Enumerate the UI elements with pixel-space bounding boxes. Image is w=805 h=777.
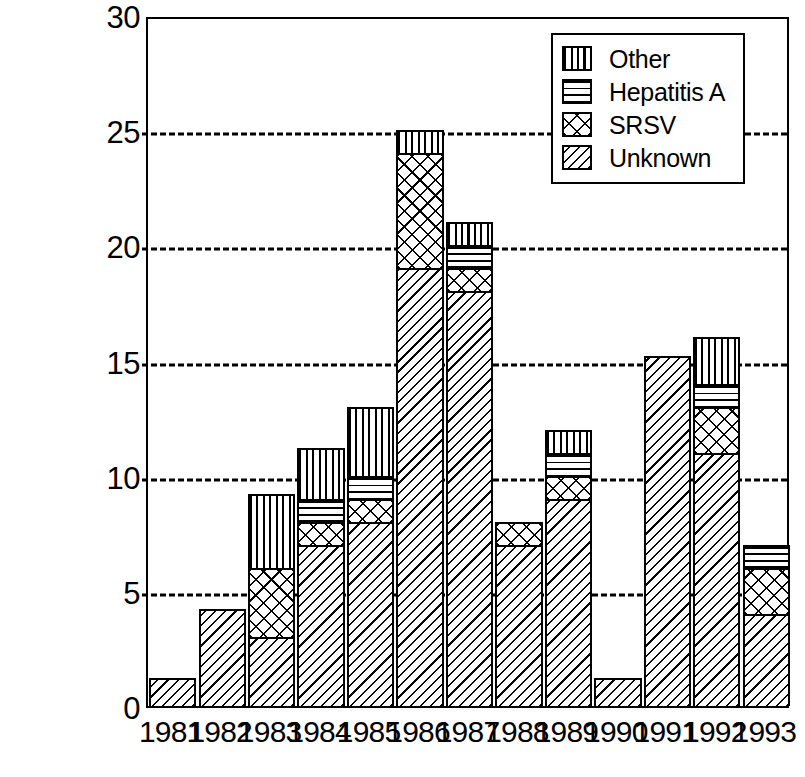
bar-segment-hepatitis-a [743, 545, 790, 568]
bar-segment-unknown [297, 545, 344, 706]
legend-item-other: Other [562, 42, 734, 75]
bar-1987 [446, 222, 493, 706]
bar-segment-srsv [693, 407, 740, 453]
bar-1990 [594, 678, 641, 706]
legend-label: Other [609, 46, 670, 72]
bar-segment-hepatitis-a [545, 453, 592, 476]
bar-1983 [248, 494, 295, 706]
y-axis-tick-label: 5 [8, 577, 140, 608]
bar-segment-other [297, 448, 344, 499]
legend-swatch-icon [562, 79, 592, 104]
bar-segment-unknown [545, 499, 592, 706]
legend-swatch-icon [562, 46, 592, 71]
y-axis-tick-label: 20 [8, 232, 140, 263]
bar-segment-other [693, 337, 740, 383]
bar-segment-srsv [545, 476, 592, 499]
bar-1989 [545, 430, 592, 706]
y-axis-tick-label: 15 [8, 347, 140, 378]
legend-label: SRSV [609, 112, 676, 138]
bar-segment-hepatitis-a [446, 245, 493, 268]
bar-segment-unknown [149, 678, 196, 706]
bar-segment-unknown [644, 356, 691, 706]
bar-segment-unknown [594, 678, 641, 706]
bar-segment-unknown [446, 291, 493, 706]
bar-1984 [297, 448, 344, 706]
x-axis-tick-label: 1993 [732, 714, 796, 750]
bar-1992 [693, 337, 740, 706]
legend-item-srsv: SRSV [562, 108, 734, 141]
bar-segment-srsv [495, 522, 542, 545]
bar-1991 [644, 356, 691, 706]
bar-segment-unknown [495, 545, 542, 706]
y-axis-tick-label: 25 [8, 117, 140, 148]
y-axis-tick-label: 30 [8, 2, 140, 33]
x-axis: 1981198219831984198519861987198819891990… [146, 714, 789, 764]
y-axis: 051015202530 [0, 0, 140, 777]
bar-segment-other [545, 430, 592, 453]
bar-segment-other [347, 407, 394, 476]
bar-segment-unknown [693, 453, 740, 706]
bar-1982 [199, 609, 246, 706]
bar-segment-srsv [446, 268, 493, 291]
chart-legend: OtherHepatitis ASRSVUnknown [551, 33, 745, 184]
bar-segment-hepatitis-a [347, 476, 394, 499]
bar-1986 [396, 130, 443, 706]
bar-segment-srsv [297, 522, 344, 545]
legend-swatch-icon [562, 112, 592, 137]
bar-1981 [149, 678, 196, 706]
y-axis-tick-label: 0 [8, 693, 140, 724]
bar-segment-srsv [248, 568, 295, 637]
bar-segment-unknown [743, 614, 790, 706]
bar-1985 [347, 407, 394, 706]
bar-segment-other [396, 130, 443, 153]
bar-segment-hepatitis-a [693, 384, 740, 407]
stacked-bar-chart: 051015202530 198119821983198419851986198… [0, 0, 805, 777]
y-axis-tick-label: 10 [8, 462, 140, 493]
bar-segment-unknown [396, 268, 443, 706]
bar-segment-srsv [347, 499, 394, 522]
bar-segment-hepatitis-a [297, 499, 344, 522]
bar-segment-unknown [248, 637, 295, 706]
bar-1993 [743, 545, 790, 706]
legend-label: Hepatitis A [609, 79, 725, 105]
legend-label: Unknown [609, 145, 711, 171]
legend-item-unknown: Unknown [562, 141, 734, 174]
legend-swatch-icon [562, 145, 592, 170]
legend-item-hepatitis-a: Hepatitis A [562, 75, 734, 108]
bar-segment-unknown [199, 609, 246, 706]
bar-segment-srsv [743, 568, 790, 614]
bar-segment-unknown [347, 522, 394, 706]
bar-1988 [495, 522, 542, 706]
bar-segment-srsv [396, 153, 443, 268]
bar-segment-other [446, 222, 493, 245]
bar-segment-other [248, 494, 295, 568]
